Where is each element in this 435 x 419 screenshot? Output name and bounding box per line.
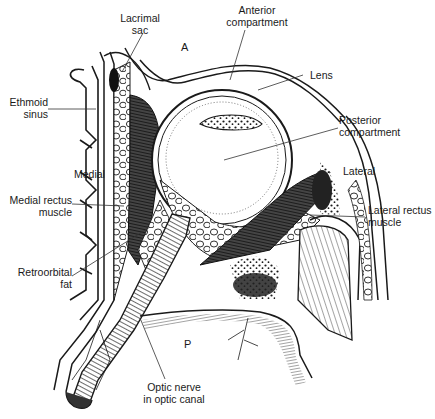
- label-lateral-rectus-muscle: Lateral rectus muscle: [368, 204, 432, 228]
- label-optic-nerve: Optic nerve in optic canal: [134, 381, 214, 405]
- label-retroorbital-fat: Retroorbital fat: [2, 266, 72, 290]
- label-lens-text: Lens: [310, 69, 333, 81]
- label-lateral-text: Lateral: [343, 165, 375, 177]
- lacrimal-sac-shape: [109, 68, 119, 92]
- label-posterior-compartment: Posterior compartment: [339, 114, 400, 138]
- label-anterior-compartment: Anterior compartment: [222, 4, 292, 28]
- label-ethmoid-sinus: Ethmoid sinus: [6, 96, 48, 120]
- label-retroorbital-fat-line2: fat: [2, 278, 72, 290]
- label-anterior-compartment-line2: compartment: [222, 16, 292, 28]
- lateral-fibrous-region: [298, 226, 352, 340]
- ethmoid-sinus-walls: [70, 66, 98, 320]
- label-medial-text: Medial: [74, 168, 105, 180]
- posterior-letter: P: [184, 338, 191, 350]
- label-ethmoid-sinus-line2: sinus: [6, 108, 48, 120]
- label-lacrimal-sac-line1: Lacrimal: [116, 12, 164, 24]
- label-posterior-compartment-line1: Posterior: [339, 114, 400, 126]
- label-lateral: Lateral: [343, 165, 375, 177]
- label-posterior-compartment-line2: compartment: [339, 126, 400, 138]
- label-medial: Medial: [74, 168, 105, 180]
- label-medial-rectus-line2: muscle: [2, 206, 72, 218]
- label-medial-rectus-line1: Medial rectus: [2, 194, 72, 206]
- label-retroorbital-fat-line1: Retroorbital: [2, 266, 72, 278]
- label-lateral-rectus-line2: muscle: [368, 216, 432, 228]
- label-optic-nerve-line2: in optic canal: [134, 393, 214, 405]
- label-ethmoid-sinus-line1: Ethmoid: [6, 96, 48, 108]
- label-lens: Lens: [310, 69, 333, 81]
- label-medial-rectus-muscle: Medial rectus muscle: [2, 194, 72, 218]
- label-optic-nerve-line1: Optic nerve: [134, 381, 214, 393]
- anterior-letter: A: [181, 41, 188, 53]
- label-lacrimal-sac: Lacrimal sac: [116, 12, 164, 36]
- medial-fat-column: [114, 62, 130, 300]
- label-lacrimal-sac-line2: sac: [116, 24, 164, 36]
- label-lateral-rectus-line1: Lateral rectus: [368, 204, 432, 216]
- label-anterior-compartment-line1: Anterior: [222, 4, 292, 16]
